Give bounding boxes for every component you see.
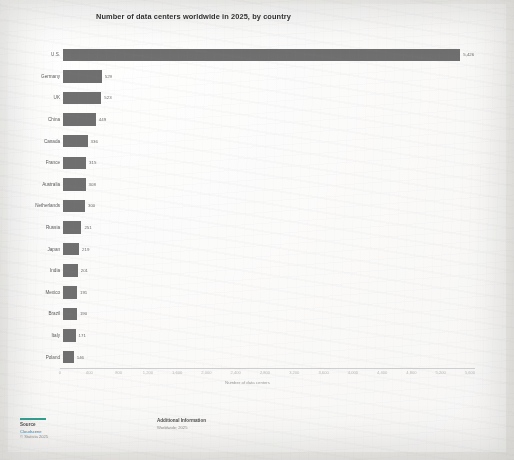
- bar[interactable]: [63, 221, 81, 234]
- bar-track: 251: [63, 217, 475, 239]
- x-tick-label: 1,200: [143, 370, 153, 375]
- category-label: Mexico: [20, 290, 63, 295]
- bar[interactable]: [63, 329, 76, 342]
- chart-title: Number of data centers worldwide in 2025…: [96, 12, 426, 21]
- bar-track: 191: [63, 282, 475, 304]
- x-tick-label: 2,400: [231, 370, 241, 375]
- bar-value-label: 308: [89, 182, 96, 187]
- category-label: Australia: [20, 182, 63, 187]
- x-axis-line: [60, 368, 475, 369]
- bar-row: Germany529: [20, 66, 475, 88]
- bar[interactable]: [63, 49, 460, 62]
- bar-row: Netherlands300: [20, 195, 475, 217]
- category-label: Netherlands: [20, 203, 63, 208]
- bar-value-label: 336: [91, 139, 98, 144]
- x-tick-label: 4,000: [348, 370, 358, 375]
- bar-track: 300: [63, 195, 475, 217]
- category-label: Poland: [20, 355, 63, 360]
- category-label: Russia: [20, 225, 63, 230]
- bar-track: 5,426: [63, 44, 475, 66]
- bar-row: Russia251: [20, 217, 475, 239]
- x-tick-label: 5,200: [436, 370, 446, 375]
- bar-row: Canada336: [20, 130, 475, 152]
- source-line-1: © Statista 2025: [20, 434, 48, 439]
- bar-track: 201: [63, 260, 475, 282]
- bar[interactable]: [63, 178, 86, 191]
- bar[interactable]: [63, 157, 86, 170]
- category-label: China: [20, 117, 63, 122]
- bar-value-label: 191: [80, 290, 87, 295]
- category-label: Italy: [20, 333, 63, 338]
- x-tick-label: 3,600: [318, 370, 328, 375]
- bar-value-label: 449: [99, 117, 106, 122]
- bar-value-label: 315: [89, 160, 96, 165]
- bar-row: UK523: [20, 87, 475, 109]
- bar-value-label: 5,426: [463, 52, 474, 57]
- bar[interactable]: [63, 70, 102, 83]
- x-tick-label: 3,200: [289, 370, 299, 375]
- bar-row: Brazil190: [20, 303, 475, 325]
- category-label: Germany: [20, 74, 63, 79]
- x-tick-label: 2,800: [260, 370, 270, 375]
- bar-row: India201: [20, 260, 475, 282]
- bar-row: Australia308: [20, 174, 475, 196]
- bar-track: 523: [63, 87, 475, 109]
- category-label: UK: [20, 95, 63, 100]
- bar-row: Mexico191: [20, 282, 475, 304]
- bar-track: 449: [63, 109, 475, 131]
- bar[interactable]: [63, 264, 78, 277]
- category-label: U.S.: [20, 52, 63, 57]
- x-tick-label: 5,600: [465, 370, 475, 375]
- x-tick-label: 2,000: [201, 370, 211, 375]
- x-tick-label: 4,800: [406, 370, 416, 375]
- category-label: France: [20, 160, 63, 165]
- x-tick-label: 1,600: [172, 370, 182, 375]
- bar[interactable]: [63, 135, 88, 148]
- bar-row: Italy171: [20, 325, 475, 347]
- bar[interactable]: [63, 308, 77, 321]
- bar-value-label: 251: [84, 225, 91, 230]
- source-block: Source Cloudscene © Statista 2025: [20, 418, 48, 440]
- bar-track: 308: [63, 174, 475, 196]
- bar[interactable]: [63, 113, 96, 126]
- bar[interactable]: [63, 200, 85, 213]
- bar-track: 146: [63, 346, 475, 368]
- x-tick-label: 800: [115, 370, 122, 375]
- bar-row: China449: [20, 109, 475, 131]
- bar[interactable]: [63, 286, 77, 299]
- info-heading: Additional Information: [157, 418, 206, 423]
- bar-value-label: 190: [80, 311, 87, 316]
- plot-area: U.S.5,426Germany529UK523China449Canada33…: [20, 44, 475, 384]
- bar-track: 190: [63, 303, 475, 325]
- x-tick-label: 0: [59, 370, 61, 375]
- bar[interactable]: [63, 92, 101, 105]
- info-line-0: Worldwide; 2025: [157, 425, 206, 430]
- bar-track: 171: [63, 325, 475, 347]
- x-axis-ticks: 04008001,2001,6002,0002,4002,8003,2003,6…: [60, 370, 475, 380]
- additional-information-block: Additional Information Worldwide; 2025: [157, 418, 206, 430]
- bar-track: 219: [63, 238, 475, 260]
- bar-value-label: 300: [88, 203, 95, 208]
- bar-row: U.S.5,426: [20, 44, 475, 66]
- bar[interactable]: [63, 351, 74, 364]
- bar-value-label: 146: [77, 355, 84, 360]
- bar-row: Poland146: [20, 346, 475, 368]
- x-tick-label: 4,400: [377, 370, 387, 375]
- category-label: Japan: [20, 247, 63, 252]
- accent-bar: [20, 418, 46, 420]
- bar-value-label: 201: [81, 268, 88, 273]
- bar-track: 315: [63, 152, 475, 174]
- bar-rows: U.S.5,426Germany529UK523China449Canada33…: [20, 44, 475, 368]
- x-tick-label: 400: [86, 370, 93, 375]
- bar-row: France315: [20, 152, 475, 174]
- bar-value-label: 529: [105, 74, 112, 79]
- category-label: India: [20, 268, 63, 273]
- category-label: Brazil: [20, 311, 63, 316]
- bar-track: 529: [63, 66, 475, 88]
- bar-value-label: 219: [82, 247, 89, 252]
- bar-row: Japan219: [20, 238, 475, 260]
- bar-track: 336: [63, 130, 475, 152]
- bar-value-label: 523: [104, 95, 111, 100]
- bar[interactable]: [63, 243, 79, 256]
- x-axis-title: Number of data centers: [20, 380, 475, 385]
